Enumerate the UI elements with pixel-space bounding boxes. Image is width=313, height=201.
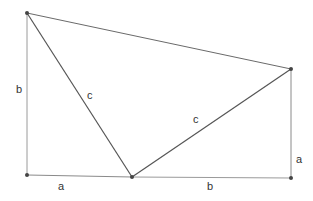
point-bottom-left	[25, 173, 29, 177]
pythagorean-trapezoid-diagram: b c c a a b	[0, 0, 313, 201]
label-bottom-right-segment: b	[207, 180, 213, 192]
label-upper-hypotenuse: c	[87, 89, 93, 101]
bottom-segment-b	[132, 177, 291, 178]
point-top-left	[25, 11, 29, 15]
top-diagonal	[27, 13, 291, 69]
label-right-side: a	[296, 153, 303, 165]
point-right-top	[289, 67, 293, 71]
label-bottom-left-segment: a	[58, 180, 65, 192]
label-lower-hypotenuse: c	[193, 113, 199, 125]
lower-hypotenuse-c	[132, 69, 291, 177]
bottom-segment-a	[27, 175, 132, 177]
label-left-side: b	[16, 83, 22, 95]
point-bottom-mid	[130, 175, 134, 179]
point-bottom-right	[289, 176, 293, 180]
upper-hypotenuse-c	[27, 13, 132, 177]
